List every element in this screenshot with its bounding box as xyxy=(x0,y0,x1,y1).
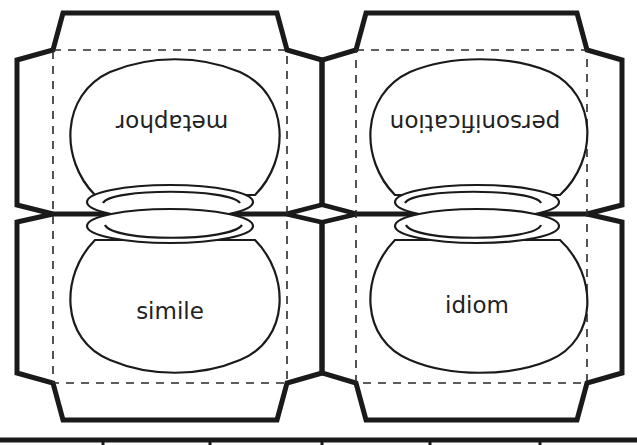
pot-bottom-left xyxy=(70,209,279,373)
panel-label-personification: personification xyxy=(385,110,565,136)
panel-label-simile: simile xyxy=(120,298,220,324)
panel-label-idiom: idiom xyxy=(427,292,527,318)
foldable-outline xyxy=(0,0,637,445)
panel-label-metaphor: metaphor xyxy=(110,110,234,136)
pot-top-left xyxy=(70,59,279,219)
pot-bottom-right xyxy=(370,209,587,373)
center-diamond xyxy=(287,205,356,222)
pot-top-right xyxy=(370,59,587,219)
foldable-worksheet: metaphor personification simile idiom xyxy=(0,0,637,445)
